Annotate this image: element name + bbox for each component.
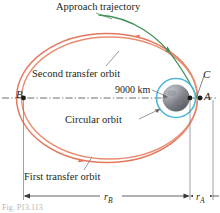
- approach-trajectory-arrow: [166, 46, 170, 52]
- planet-surface-mark-1: [168, 90, 177, 96]
- label-altitude-9000km: 9000 km: [115, 85, 150, 95]
- dimension-arrow-rb-left: [24, 194, 31, 199]
- radius-a-subscript: A: [200, 196, 205, 205]
- label-radius-a: rA: [196, 192, 205, 205]
- radius-b-subscript: B: [108, 196, 113, 205]
- dimension-arrow-rb-right: [184, 194, 191, 199]
- leader-first-transfer: [84, 157, 92, 170]
- label-second-transfer-orbit: Second transfer orbit: [32, 69, 120, 80]
- label-first-transfer-orbit: First transfer orbit: [24, 172, 100, 183]
- point-c-marker: [188, 96, 193, 101]
- label-approach-trajectory: Approach trajectory: [56, 2, 140, 13]
- label-point-c: C: [203, 69, 210, 80]
- label-point-a: A: [204, 91, 211, 102]
- leader-second-transfer: [106, 51, 119, 66]
- label-radius-b: rB: [104, 192, 113, 205]
- label-circular-orbit: Circular orbit: [65, 115, 122, 126]
- point-a-marker: [198, 96, 203, 101]
- planet-surface-mark-2: [176, 101, 183, 106]
- leader-circular-orbit: [139, 110, 158, 119]
- planet-shading: [163, 85, 190, 112]
- label-point-b: B: [16, 89, 23, 100]
- figure-caption: Fig. P13.113: [2, 204, 43, 212]
